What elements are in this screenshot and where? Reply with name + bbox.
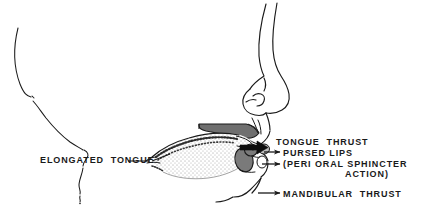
anatomical-illustration	[0, 0, 429, 215]
chin-outline	[216, 178, 261, 202]
label-mandibular-thrust: MANDIBULAR THRUST	[283, 189, 402, 200]
label-tongue-thrust: TONGUE THRUST	[276, 137, 368, 148]
label-peri-oral-action: ACTION)	[345, 169, 389, 180]
label-peri-oral-sphincter: (PERI ORAL SPHINCTER	[283, 159, 407, 170]
face-profile-outline	[243, 3, 289, 115]
loose-profile-sketch-line	[15, 28, 88, 204]
figure-canvas: ELONGATED TONGUE TONGUE THRUST PURSED LI…	[0, 0, 429, 215]
label-pursed-lips: PURSED LIPS	[283, 148, 353, 159]
label-elongated-tongue: ELONGATED TONGUE	[40, 155, 154, 166]
